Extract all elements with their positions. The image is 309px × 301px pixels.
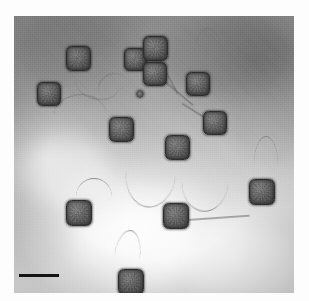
figure-root (0, 0, 309, 301)
electron-micrograph-image (14, 16, 294, 293)
scale-bar (19, 274, 59, 277)
film-grain-overlay (14, 16, 294, 293)
